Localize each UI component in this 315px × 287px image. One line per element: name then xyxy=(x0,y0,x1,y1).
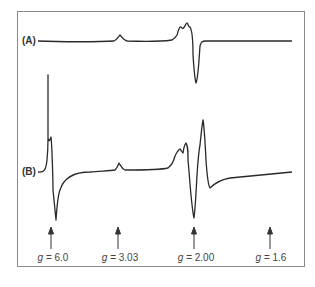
arrow-icon xyxy=(49,227,54,249)
g-value-label: g = 2.00 xyxy=(178,252,214,263)
arrow-icon xyxy=(192,227,197,249)
g-marker-arrows xyxy=(49,227,273,249)
g-value-label: g = 6.0 xyxy=(38,252,69,263)
epr-spectra-plot xyxy=(0,0,315,287)
arrow-icon xyxy=(116,227,121,249)
arrow-icon xyxy=(268,227,273,249)
trace-label-a: (A) xyxy=(22,35,36,46)
spectrum-trace-a xyxy=(38,23,292,83)
trace-label-b: (B) xyxy=(22,166,36,177)
spectrum-trace-b xyxy=(38,75,292,220)
g-value-label: g = 1.6 xyxy=(256,252,287,263)
g-value-label: g = 3.03 xyxy=(102,252,138,263)
